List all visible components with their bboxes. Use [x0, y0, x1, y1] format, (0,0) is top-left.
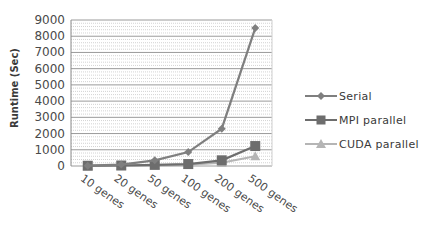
y-axis-label: Runtime (Sec) [9, 48, 20, 128]
y-tick-label: 8000 [34, 29, 65, 43]
series-cuda-parallel [83, 151, 261, 170]
gridlines [71, 20, 272, 166]
y-tick-label: 2000 [34, 127, 65, 141]
y-axis: 0100020003000400050006000700080009000 [34, 13, 65, 173]
square-marker-icon [250, 141, 260, 151]
legend-item-mpi: MPI parallel [305, 108, 419, 132]
legend-label: CUDA parallel [339, 138, 419, 151]
y-tick-label: 5000 [34, 78, 65, 92]
triangle-marker-icon [305, 139, 337, 149]
legend-label: MPI parallel [339, 114, 406, 127]
legend-label: Serial [339, 90, 372, 103]
y-tick-label: 1000 [34, 143, 65, 157]
square-marker-icon [183, 159, 193, 169]
y-tick-label: 0 [57, 159, 65, 173]
legend-item-cuda: CUDA parallel [305, 132, 419, 156]
triangle-marker-icon [250, 151, 260, 160]
y-tick-label: 7000 [34, 45, 65, 59]
y-tick-label: 4000 [34, 94, 65, 108]
y-tick-label: 9000 [34, 13, 65, 27]
x-axis: 10 genes20 genes50 genes100 genes200 gen… [78, 172, 300, 216]
diamond-marker-icon [305, 91, 337, 101]
diamond-marker-icon [251, 24, 259, 32]
y-tick-label: 3000 [34, 110, 65, 124]
square-marker-icon [217, 155, 227, 165]
legend: Serial MPI parallel CUDA parallel [305, 84, 419, 156]
square-marker-icon [305, 115, 337, 125]
y-tick-label: 6000 [34, 62, 65, 76]
legend-item-serial: Serial [305, 84, 419, 108]
